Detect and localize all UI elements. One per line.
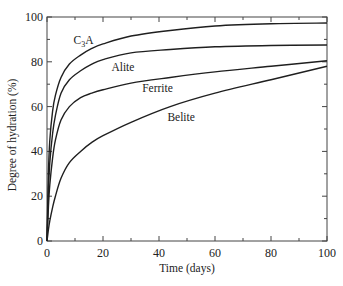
x-tick-label: 100 <box>318 246 336 260</box>
y-tick-label: 0 <box>37 234 43 248</box>
curve-c3a <box>47 23 327 241</box>
series-label: Ferrite <box>142 82 173 94</box>
curve-alite <box>47 45 327 241</box>
y-tick-label: 100 <box>25 10 43 24</box>
series-label: C3A <box>74 34 95 49</box>
y-axis-title: Degree of hydration (%) <box>6 78 19 191</box>
hydration-chart: 020406080100 020406080100 C3AAliteFerrit… <box>0 0 343 286</box>
x-tick-label: 0 <box>44 246 50 260</box>
curve-belite <box>47 66 327 241</box>
x-tick-label: 80 <box>265 246 277 260</box>
curve-ferrite <box>47 61 327 241</box>
series-curves <box>47 23 327 241</box>
series-labels: C3AAliteFerriteBelite <box>74 34 195 123</box>
series-label: Alite <box>111 61 134 73</box>
x-axis-title: Time (days) <box>159 262 215 275</box>
x-tick-label: 40 <box>153 246 165 260</box>
y-tick-label: 80 <box>31 55 43 69</box>
y-axis-tick-labels: 020406080100 <box>25 10 43 248</box>
y-tick-label: 40 <box>31 144 43 158</box>
x-tick-label: 20 <box>97 246 109 260</box>
series-label: Belite <box>167 111 194 123</box>
x-axis-tick-labels: 020406080100 <box>44 246 336 260</box>
y-tick-label: 60 <box>31 100 43 114</box>
x-tick-label: 60 <box>209 246 221 260</box>
y-tick-label: 20 <box>31 189 43 203</box>
